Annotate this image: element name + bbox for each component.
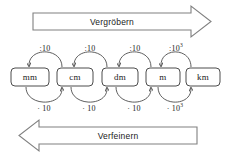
unit-box-dm (102, 68, 138, 86)
arc-m-to-dm (119, 52, 151, 67)
unit-boxes (11, 68, 220, 86)
unit-box-km (186, 68, 220, 86)
unit-box-mm (11, 68, 49, 86)
arc-dm-to-cm (74, 52, 107, 67)
unit-box-m (146, 68, 180, 86)
diagram-canvas (0, 0, 230, 156)
unit-conversion-diagram: Vergröbern Verfeinern mm cm dm m km :10 … (0, 0, 230, 156)
arc-cm-to-mm (29, 52, 62, 67)
top-arrow-shape (33, 6, 211, 37)
arc-km-to-m (161, 52, 191, 67)
arc-dm-to-m (116, 87, 151, 102)
bottom-arcs (26, 87, 191, 102)
arc-m-to-km (158, 87, 191, 102)
unit-box-cm (57, 68, 93, 86)
bottom-arrow-shape (19, 120, 197, 151)
top-arcs (29, 52, 191, 67)
arc-mm-to-cm (26, 87, 62, 102)
arc-cm-to-dm (71, 87, 107, 102)
